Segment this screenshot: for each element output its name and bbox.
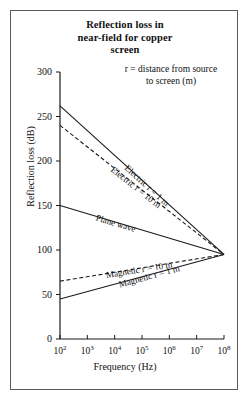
chart-svg — [11, 11, 239, 391]
chart-figure: Reflection loss in near-field for copper… — [10, 10, 238, 390]
plot-area: 300250200150100500 102103104105106107108… — [11, 11, 239, 391]
series-line — [60, 206, 224, 255]
